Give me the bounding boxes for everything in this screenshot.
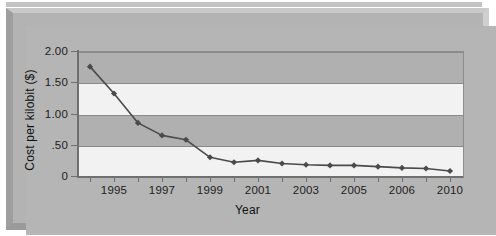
gridline [79, 83, 463, 84]
x-axis-tick-label: 1995 [101, 184, 127, 196]
y-axis-tick-label: .50 [51, 139, 68, 151]
plot-band [79, 115, 463, 146]
gridline [79, 146, 463, 147]
x-axis-tick-label: 1999 [197, 184, 223, 196]
gridline [79, 115, 463, 116]
y-axis-tick [71, 114, 78, 115]
plot-band [79, 146, 463, 177]
x-axis-tick [402, 177, 403, 182]
y-axis-tick [71, 176, 78, 177]
y-axis-tick-label: 1.50 [45, 76, 68, 88]
x-axis-tick [258, 177, 259, 182]
y-axis-tick-label: 2.00 [45, 45, 68, 57]
x-axis-tick [162, 177, 163, 182]
y-axis-tick-label: 0 [61, 170, 68, 182]
x-axis-tick-label: 2001 [245, 184, 271, 196]
x-axis-tick [186, 177, 187, 182]
x-axis-tick-label: 2005 [341, 184, 367, 196]
x-axis-tick [306, 177, 307, 182]
plot-band [79, 83, 463, 114]
x-axis-tick [210, 177, 211, 182]
x-axis-tick-label: 2010 [437, 184, 463, 196]
x-axis-tick [114, 177, 115, 182]
x-axis-tick [378, 177, 379, 182]
x-axis-tick [138, 177, 139, 182]
y-axis-tick-label: 1.00 [45, 108, 68, 120]
y-axis-title: Cost per kilobit ($) [23, 50, 37, 190]
x-axis-tick [426, 177, 427, 182]
x-axis-tick [282, 177, 283, 182]
x-axis-tick [354, 177, 355, 182]
x-axis-title: Year [0, 203, 495, 217]
y-axis-tick [71, 82, 78, 83]
y-axis-tick [71, 145, 78, 146]
x-axis-tick [450, 177, 451, 182]
gridline [79, 52, 463, 53]
plot-band [79, 52, 463, 83]
x-axis-line [77, 176, 463, 178]
x-axis-tick [234, 177, 235, 182]
y-axis-tick [71, 51, 78, 52]
x-axis-tick [90, 177, 91, 182]
x-axis-tick-label: 2006 [389, 184, 415, 196]
x-axis-tick-label: 2003 [293, 184, 319, 196]
plot-area [78, 51, 464, 178]
x-axis-tick-label: 1997 [149, 184, 175, 196]
x-axis-tick [330, 177, 331, 182]
